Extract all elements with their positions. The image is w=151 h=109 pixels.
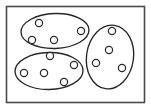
data-point[interactable] [40,69,47,76]
data-point[interactable] [28,36,35,43]
cluster-diagram-canvas [0,0,151,109]
data-point[interactable] [118,64,125,71]
data-point[interactable] [46,52,53,59]
data-point[interactable] [92,59,99,66]
data-point[interactable] [35,19,42,26]
data-point[interactable] [20,69,27,76]
data-point[interactable] [60,78,67,85]
figure-container [0,0,151,109]
data-point[interactable] [108,27,115,34]
data-point[interactable] [105,46,112,53]
data-point[interactable] [77,27,84,34]
data-point[interactable] [50,36,57,43]
data-point[interactable] [70,61,77,68]
